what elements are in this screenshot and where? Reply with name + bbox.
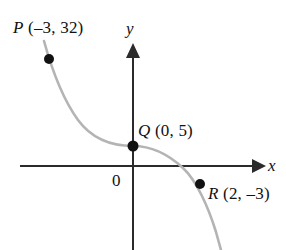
point-coords-R: (2, –3) bbox=[219, 184, 270, 203]
point-label-P: P (–3, 32) bbox=[13, 19, 83, 36]
y-axis-label: y bbox=[126, 20, 134, 37]
point-label-Q: Q (0, 5) bbox=[138, 122, 193, 139]
point-dot-R bbox=[195, 179, 205, 189]
point-dot-Q bbox=[128, 141, 139, 152]
point-dot-P bbox=[44, 54, 54, 64]
point-label-R-text: R (2, –3) bbox=[208, 184, 270, 203]
graph-figure: P (–3, 32) Q (0, 5) R (2, –3) y x 0 bbox=[0, 0, 286, 250]
point-coords-Q: (0, 5) bbox=[150, 121, 192, 140]
point-label-P-text: P (–3, 32) bbox=[13, 18, 83, 37]
point-coords-P: (–3, 32) bbox=[24, 18, 84, 37]
point-label-R: R (2, –3) bbox=[208, 185, 270, 202]
point-name-R: R bbox=[208, 184, 219, 203]
point-name-P: P bbox=[13, 18, 24, 37]
x-axis-label: x bbox=[268, 157, 276, 174]
origin-label: 0 bbox=[112, 172, 121, 189]
point-name-Q: Q bbox=[138, 121, 150, 140]
x-axis-arrowhead bbox=[252, 159, 266, 173]
y-axis-arrowhead bbox=[126, 43, 140, 58]
point-label-Q-text: Q (0, 5) bbox=[138, 121, 193, 140]
